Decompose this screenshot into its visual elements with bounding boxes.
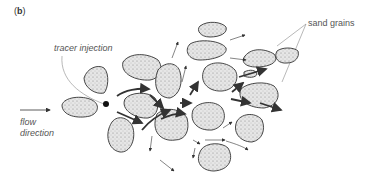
tracer-injection-point: [103, 101, 109, 107]
sand-grain: [235, 115, 263, 143]
sand-grain: [198, 144, 230, 171]
sand-grains: [62, 22, 298, 171]
sand-grain: [192, 103, 224, 131]
sand-grain: [203, 63, 237, 91]
sand-grain: [62, 97, 97, 117]
sand-grain: [198, 22, 226, 37]
sand-grain: [276, 48, 299, 63]
sand-grain: [243, 50, 276, 67]
sand-grain: [156, 64, 181, 98]
sand-grain: [187, 41, 226, 60]
porous-flow-diagram: [0, 0, 379, 183]
sand-grain: [123, 55, 161, 80]
sand-grain: [240, 83, 278, 108]
sand-grain: [108, 118, 134, 152]
sand-grain: [84, 66, 108, 93]
